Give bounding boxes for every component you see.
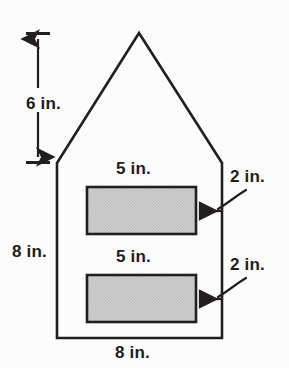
lower-shaded-rectangle [87,275,196,322]
geometry-figure: 6 in. 8 in. 8 in. 5 in. 2 in. 5 in. 2 in… [0,0,289,368]
upper-shaded-rectangle [87,187,196,234]
lower-rectangle-width-label: 5 in. [116,248,151,265]
wall-height-label: 8 in. [12,243,47,260]
upper-rectangle-width-label: 5 in. [116,160,151,177]
roof-height-label: 6 in. [26,95,61,112]
lower-rectangle-height-label: 2 in. [230,256,265,273]
base-width-label: 8 in. [115,344,150,361]
upper-rectangle-height-label: 2 in. [230,168,265,185]
